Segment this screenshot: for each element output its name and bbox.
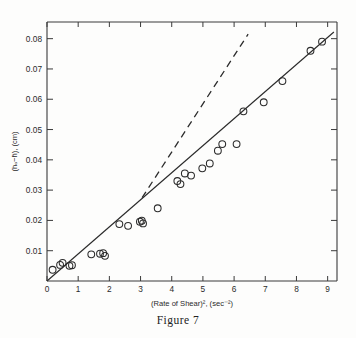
x-tick-label: 1 [76, 284, 81, 294]
data-point-marker [88, 251, 95, 258]
y-tick-label: 0.04 [26, 155, 43, 165]
plot-lines [47, 32, 334, 281]
axis-ticks [47, 22, 337, 281]
reference-dashed-line [142, 34, 248, 198]
data-point-marker [49, 266, 56, 273]
data-point-marker [199, 165, 206, 172]
y-tick-label: 0.07 [26, 64, 43, 74]
y-tick-label: 0.02 [26, 215, 43, 225]
x-axis-label: (Rate of Shear)², (sec⁻²) [151, 299, 234, 308]
data-points [49, 38, 325, 273]
y-tick-label: 0.08 [26, 34, 43, 44]
y-axis-label: (hₒ−h̄), (cm) [10, 131, 19, 172]
y-tick-label: 0.06 [26, 94, 43, 104]
data-point-marker [214, 147, 221, 154]
x-tick-label: 9 [325, 284, 330, 294]
scatter-plot: 01234567890.010.020.030.040.050.060.070.… [0, 0, 356, 338]
axis-tick-labels: 01234567890.010.020.030.040.050.060.070.… [26, 34, 330, 294]
x-tick-label: 3 [138, 284, 143, 294]
plot-axes [47, 22, 337, 281]
figure-container: 01234567890.010.020.030.040.050.060.070.… [0, 0, 356, 338]
fit-line [47, 32, 334, 281]
data-point-marker [219, 141, 226, 148]
x-tick-label: 0 [45, 284, 50, 294]
data-point-marker [154, 205, 161, 212]
y-tick-label: 0.01 [26, 246, 43, 256]
x-tick-label: 4 [169, 284, 174, 294]
y-tick-label: 0.03 [26, 185, 43, 195]
data-point-marker [188, 172, 195, 179]
x-tick-label: 7 [263, 284, 268, 294]
x-tick-label: 5 [201, 284, 206, 294]
y-tick-label: 0.05 [26, 125, 43, 135]
figure-caption: Figure 7 [0, 314, 356, 326]
x-tick-label: 2 [107, 284, 112, 294]
data-point-marker [233, 141, 240, 148]
data-point-marker [125, 222, 132, 229]
x-tick-label: 8 [294, 284, 299, 294]
x-tick-label: 6 [232, 284, 237, 294]
data-point-marker [206, 160, 213, 167]
data-point-marker [240, 108, 247, 115]
data-point-marker [116, 221, 123, 228]
data-point-marker [260, 99, 267, 106]
data-point-marker [279, 78, 286, 85]
